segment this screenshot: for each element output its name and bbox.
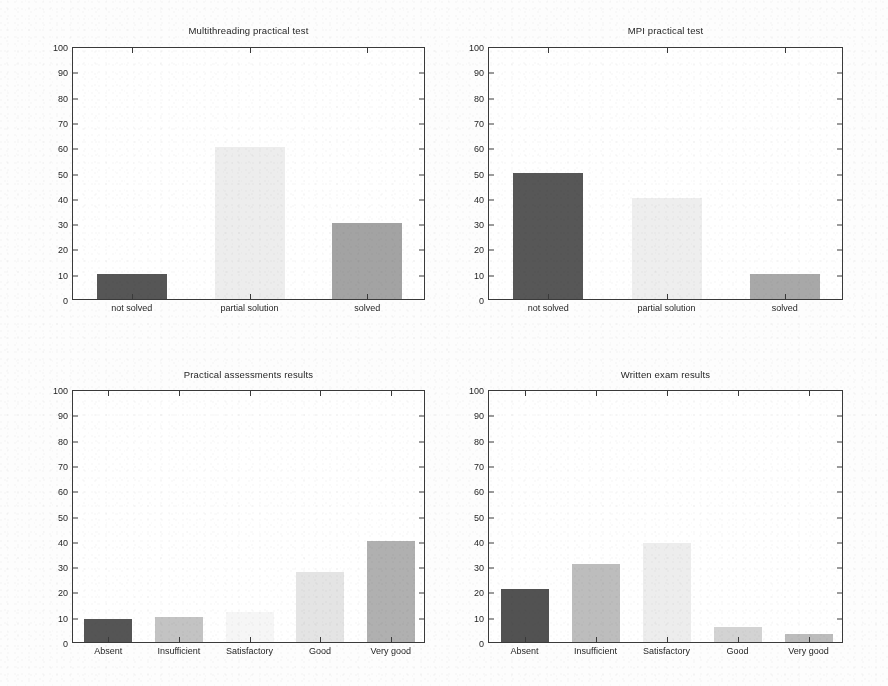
- bar: [501, 589, 549, 642]
- bar: [643, 543, 691, 642]
- y-axis-tick-mark: [489, 593, 494, 594]
- plot-inner: 0102030405060708090100AbsentInsufficient…: [489, 391, 842, 642]
- y-axis-tick-mark: [489, 441, 494, 442]
- y-axis-tick-mark: [489, 416, 494, 417]
- y-axis-tick-mark-right: [837, 542, 842, 543]
- y-axis-tick-mark: [489, 492, 494, 493]
- y-axis-tick-label: 100: [469, 387, 484, 396]
- y-axis-tick-label: 20: [474, 589, 484, 598]
- y-axis-tick-label: 80: [474, 437, 484, 446]
- y-axis-tick-label: 40: [474, 538, 484, 547]
- x-axis-tick-mark: [525, 637, 526, 642]
- x-axis-tick-mark-top: [738, 391, 739, 396]
- y-axis-tick-label: 30: [474, 564, 484, 573]
- y-axis-tick-mark-right: [837, 466, 842, 467]
- y-axis-tick-mark: [489, 618, 494, 619]
- y-axis-tick-mark-right: [837, 593, 842, 594]
- y-axis-tick-label: 60: [474, 488, 484, 497]
- x-axis-tick-mark: [596, 637, 597, 642]
- y-axis-tick-mark-right: [837, 517, 842, 518]
- y-axis-tick-mark: [489, 466, 494, 467]
- y-axis-tick-mark-right: [837, 441, 842, 442]
- figure-canvas: Multithreading practical test01020304050…: [0, 0, 888, 686]
- x-axis-category-label: Satisfactory: [643, 647, 690, 656]
- x-axis-category-label: Absent: [510, 647, 538, 656]
- y-axis-tick-label: 90: [474, 412, 484, 421]
- x-axis-tick-mark: [809, 637, 810, 642]
- x-axis-category-label: Insufficient: [574, 647, 617, 656]
- y-axis-tick-mark: [489, 568, 494, 569]
- chart-title: Written exam results: [488, 369, 843, 380]
- y-axis-tick-label: 10: [474, 614, 484, 623]
- x-axis-tick-mark: [738, 637, 739, 642]
- x-axis-tick-mark-top: [596, 391, 597, 396]
- x-axis-tick-mark-top: [809, 391, 810, 396]
- y-axis-tick-label: 50: [474, 513, 484, 522]
- y-axis-tick-mark: [489, 542, 494, 543]
- y-axis-tick-mark-right: [837, 416, 842, 417]
- x-axis-tick-mark: [667, 637, 668, 642]
- x-axis-category-label: Good: [726, 647, 748, 656]
- y-axis-tick-label: 70: [474, 462, 484, 471]
- y-axis-tick-label: 0: [479, 640, 484, 649]
- plot-area: 0102030405060708090100AbsentInsufficient…: [488, 390, 843, 643]
- bar: [572, 564, 620, 642]
- x-axis-tick-mark-top: [525, 391, 526, 396]
- y-axis-tick-mark-right: [837, 492, 842, 493]
- x-axis-category-label: Very good: [788, 647, 829, 656]
- x-axis-tick-mark-top: [667, 391, 668, 396]
- y-axis-tick-mark: [489, 517, 494, 518]
- y-axis-tick-mark-right: [837, 618, 842, 619]
- chart-panel: Written exam results01020304050607080901…: [0, 0, 888, 686]
- y-axis-tick-mark-right: [837, 568, 842, 569]
